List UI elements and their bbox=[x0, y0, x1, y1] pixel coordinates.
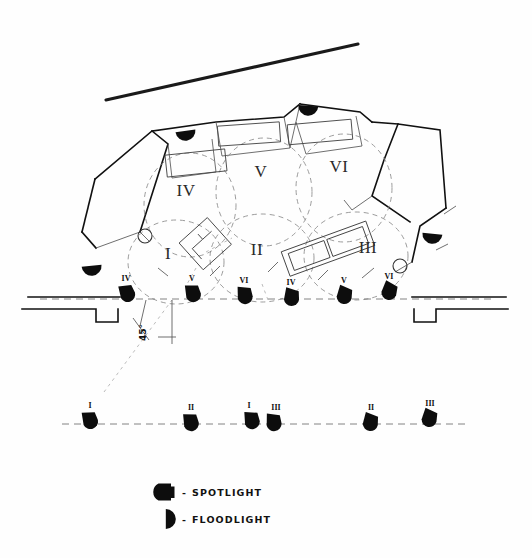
floodlight-icon[interactable] bbox=[176, 129, 197, 142]
angle-annotation: 45° bbox=[104, 300, 176, 392]
overhead-pipe bbox=[106, 44, 358, 100]
fixture-label: IV bbox=[287, 278, 296, 287]
zone-numerals: IV V VI I II III bbox=[165, 157, 377, 263]
spotlight-fixture[interactable]: I bbox=[243, 401, 260, 430]
fixture-label: II bbox=[368, 403, 374, 412]
zone-numeral: V bbox=[255, 162, 268, 181]
fixture-label: IV bbox=[122, 274, 131, 283]
legend-dash-floodlight: - bbox=[182, 514, 187, 525]
furniture bbox=[165, 119, 375, 276]
legend: - SPOTLIGHT - FLOODLIGHT bbox=[153, 484, 271, 530]
spotlight-fixture[interactable]: IV bbox=[117, 274, 137, 304]
fixture-label: V bbox=[341, 276, 347, 285]
spotlight-icon bbox=[153, 484, 174, 501]
zone-numeral: I bbox=[165, 244, 171, 263]
floodlight-icon[interactable] bbox=[298, 105, 319, 116]
legend-row-spotlight: - SPOTLIGHT bbox=[153, 484, 262, 501]
floodlight-icon[interactable] bbox=[421, 233, 442, 245]
fixture-label: I bbox=[247, 401, 250, 410]
set-outline bbox=[82, 104, 446, 272]
spotlight-fixture[interactable]: V bbox=[335, 276, 353, 305]
fob-lamp-row: IV V VI IV V VI bbox=[117, 272, 399, 307]
angle-label: 45° bbox=[138, 324, 148, 341]
spotlight-fixture[interactable]: II bbox=[362, 403, 380, 432]
zone-numeral: IV bbox=[177, 181, 196, 200]
fixture-label: II bbox=[188, 403, 194, 412]
floodlight-icon bbox=[166, 509, 176, 529]
stage-lighting-plan: 45° IV V VI I II III IV bbox=[0, 0, 532, 558]
spotlight-fixture[interactable]: I bbox=[81, 401, 100, 431]
spotlight-fixture[interactable]: II bbox=[182, 403, 200, 432]
rear-lamp-row: I II I III II III bbox=[81, 399, 439, 432]
sketch-detail-strokes bbox=[140, 200, 456, 326]
zone-numeral: VI bbox=[330, 157, 349, 176]
auditorium-walls bbox=[22, 297, 508, 322]
floodlight-icon[interactable] bbox=[82, 265, 103, 277]
spotlight-fixture[interactable]: VI bbox=[237, 276, 254, 305]
fixture-label: III bbox=[425, 399, 434, 408]
pivot-circle bbox=[138, 229, 152, 243]
fixture-label: VI bbox=[240, 276, 249, 285]
legend-label-spotlight: SPOTLIGHT bbox=[192, 487, 262, 498]
spotlight-fixture[interactable]: III bbox=[266, 403, 282, 432]
spotlight-fixture[interactable]: VI bbox=[380, 272, 400, 302]
spotlight-fixture[interactable]: IV bbox=[283, 278, 300, 307]
legend-label-floodlight: FLOODLIGHT bbox=[192, 514, 271, 525]
plan-drawing-canvas: 45° IV V VI I II III IV bbox=[0, 0, 532, 558]
legend-dash-spotlight: - bbox=[182, 487, 187, 498]
zone-numeral: III bbox=[359, 238, 377, 257]
fixture-label: I bbox=[88, 401, 91, 410]
legend-row-floodlight: - FLOODLIGHT bbox=[166, 509, 271, 529]
fixture-label: III bbox=[271, 403, 280, 412]
zone-numeral: II bbox=[251, 240, 263, 259]
fixture-label: VI bbox=[385, 272, 394, 281]
